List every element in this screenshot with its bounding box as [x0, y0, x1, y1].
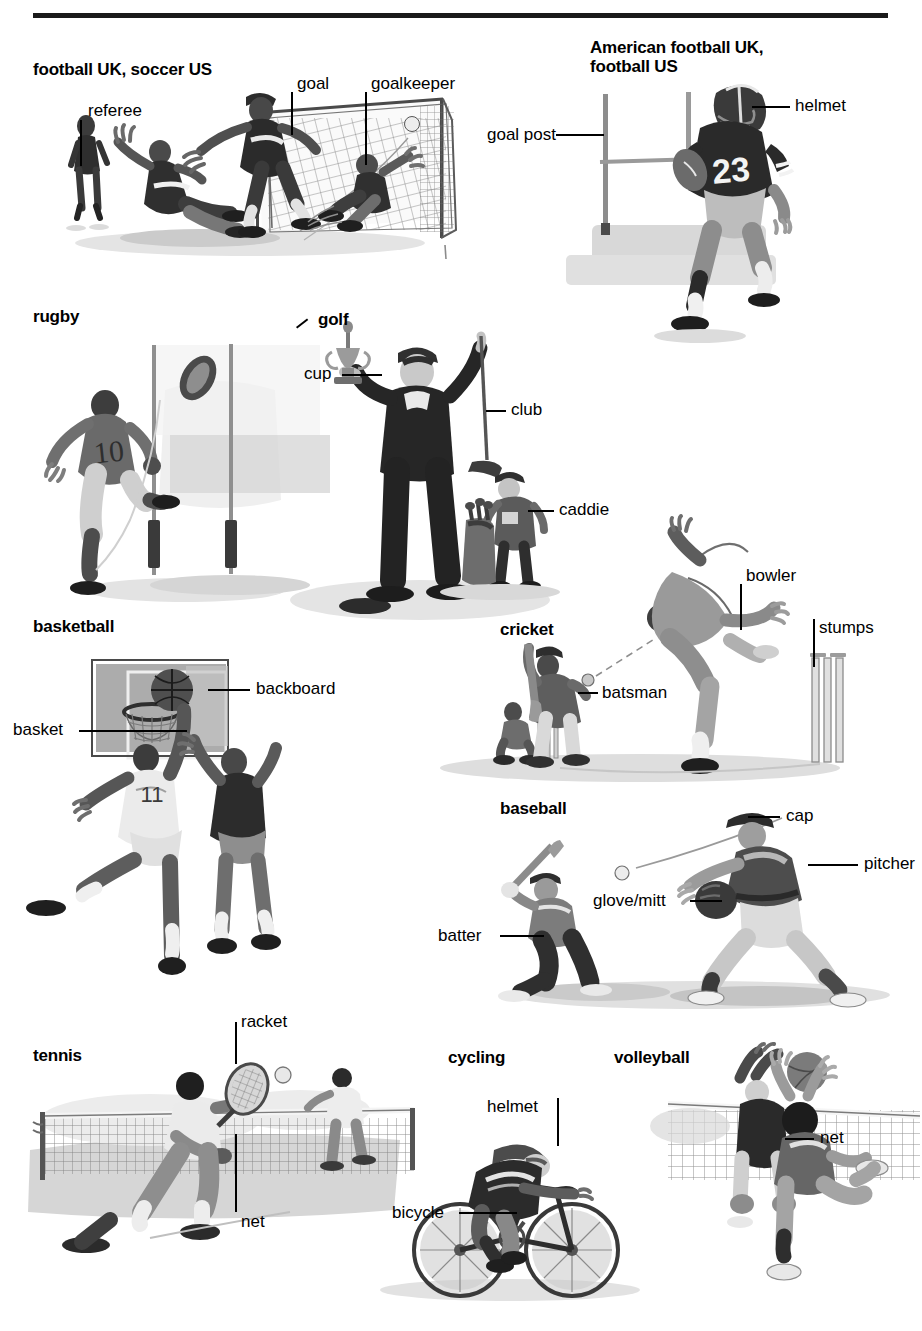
leader-helmet-cycling [557, 1098, 559, 1146]
svg-text:23: 23 [710, 149, 751, 190]
basketball-player-dark [179, 734, 281, 954]
label-net-tennis: net [241, 1212, 265, 1231]
volleyball-illustration [650, 1044, 920, 1280]
leader-batter [500, 935, 544, 937]
leader-referee [80, 120, 82, 166]
leader-goal-post [556, 134, 604, 136]
pitcher-figure [679, 813, 866, 1007]
label-batter: batter [438, 926, 481, 945]
section-title-american-football: American football UK, football US [590, 38, 763, 76]
tennis-illustration [28, 1057, 415, 1253]
label-bicycle: bicycle [392, 1203, 444, 1222]
label-goal: goal [297, 74, 329, 93]
section-title-cricket: cricket [500, 620, 553, 639]
leader-goal [291, 92, 293, 135]
label-basket: basket [13, 720, 63, 739]
far-stumps [810, 653, 846, 762]
section-title-tennis: tennis [33, 1046, 82, 1065]
label-cap: cap [786, 806, 813, 825]
section-title-cycling: cycling [448, 1048, 505, 1067]
label-goal-post: goal post [487, 125, 556, 144]
label-club: club [511, 400, 542, 419]
section-title-rugby: rugby [33, 307, 79, 326]
volleyball-spiker-figure [767, 1050, 888, 1280]
label-net-volleyball: net [820, 1128, 844, 1147]
american-football-illustration: 23 [566, 85, 793, 343]
section-title-basketball: basketball [33, 617, 114, 636]
baseball-illustration [498, 813, 890, 1009]
label-goalkeeper: goalkeeper [371, 74, 455, 93]
leader-cup [342, 374, 382, 376]
label-helmet-cycling: helmet [487, 1097, 538, 1116]
cycling-illustration [380, 1145, 640, 1301]
leader-net-volleyball [785, 1138, 814, 1140]
label-backboard: backboard [256, 679, 335, 698]
label-stumps: stumps [819, 618, 874, 637]
leader-goalkeeper [365, 92, 367, 165]
leader-helmet [752, 106, 790, 108]
label-cup: cup [304, 364, 331, 383]
leader-bicycle [459, 1212, 517, 1214]
illustration-layer: 23 [0, 0, 922, 1331]
label-racket: racket [241, 1012, 287, 1031]
section-title-golf: golf [318, 310, 348, 329]
leader-racket [235, 1022, 237, 1064]
leader-caddie [528, 510, 554, 512]
label-bowler: bowler [746, 566, 796, 585]
leader-pitcher [808, 864, 858, 866]
section-title-volleyball: volleyball [614, 1048, 689, 1067]
label-caddie: caddie [559, 500, 609, 519]
rugby-illustration: 10 [46, 344, 330, 602]
basketball-illustration: 11 [26, 660, 281, 975]
section-title-football-soccer: football UK, soccer US [33, 60, 212, 79]
label-helmet-football: helmet [795, 96, 846, 115]
leader-cap [748, 816, 780, 818]
leader-club [486, 410, 506, 412]
sliding-player-figure [115, 125, 255, 238]
football-player-figure: 23 [654, 85, 793, 343]
leader-glove-mitt [690, 900, 722, 902]
leader-backboard [208, 689, 250, 691]
batter-figure [498, 840, 612, 1002]
leader-stumps [813, 619, 815, 667]
svg-text:11: 11 [141, 782, 164, 807]
leader-net-tennis [235, 1134, 237, 1212]
page-root: 23 [0, 0, 922, 1331]
label-referee: referee [88, 101, 142, 120]
leader-bowler [740, 584, 742, 630]
leader-basket [79, 730, 187, 732]
label-glove-mitt: glove/mitt [593, 891, 666, 910]
referee-figure [66, 115, 109, 231]
section-title-baseball: baseball [500, 799, 566, 818]
label-batsman: batsman [602, 683, 667, 702]
label-pitcher: pitcher [864, 854, 915, 873]
bowler-figure [642, 516, 788, 774]
leader-batsman [578, 692, 598, 694]
caddie-figure [462, 472, 544, 591]
